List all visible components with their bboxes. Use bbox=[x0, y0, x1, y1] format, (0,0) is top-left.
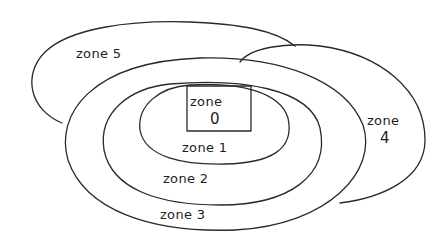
zone-3-label: zone 3 bbox=[160, 207, 205, 222]
zone-2-label: zone 2 bbox=[163, 171, 208, 186]
zone-5-label: zone 5 bbox=[76, 46, 121, 61]
zone-4-label-line2: 4 bbox=[380, 129, 390, 147]
zone-4-label-line1: zone bbox=[367, 113, 399, 128]
zone-0-label-line1: zone bbox=[190, 94, 222, 109]
zone-5-outline bbox=[32, 22, 295, 123]
zone-0-label-line2: 0 bbox=[210, 110, 220, 128]
zones-diagram: zone 5 zone 4 zone 0 zone 1 zone 2 zone … bbox=[0, 0, 448, 248]
zone-1-label: zone 1 bbox=[182, 140, 227, 155]
